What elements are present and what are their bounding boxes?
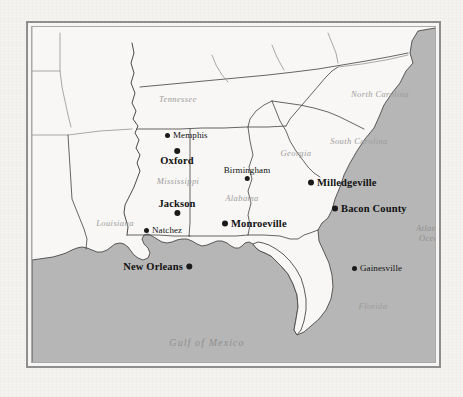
map-pin-icon — [222, 220, 228, 226]
city-label-new-orleans: New Orleans — [123, 261, 183, 272]
map-pin-icon — [308, 179, 314, 185]
city-marker-milledgeville[interactable]: Milledgeville — [308, 177, 377, 188]
region-label-south-carolina: South Carolina — [330, 136, 387, 146]
city-label-gainesville: Gainesville — [360, 263, 402, 273]
city-label-natchez: Natchez — [152, 225, 182, 235]
map-canvas: TennesseeNorth CarolinaSouth CarolinaGeo… — [32, 27, 435, 362]
city-label-oxford: Oxford — [160, 155, 194, 166]
city-marker-memphis[interactable]: Memphis — [165, 130, 208, 140]
city-label-memphis: Memphis — [173, 130, 208, 140]
water-label-gulf-of-mexico: Gulf of Mexico — [169, 337, 244, 348]
city-label-bacon-county: Bacon County — [341, 203, 407, 214]
city-marker-natchez[interactable]: Natchez — [144, 225, 182, 235]
city-marker-birmingham[interactable]: Birmingham — [224, 165, 271, 181]
region-label-florida: Florida — [359, 301, 388, 311]
map-pin-icon — [352, 266, 357, 271]
water-label-atlantic-ocean: AtlanticOcean — [416, 224, 435, 244]
region-label-alabama: Alabama — [225, 193, 259, 203]
map-pin-icon — [332, 205, 338, 211]
region-label-tennessee: Tennessee — [159, 94, 197, 104]
city-marker-oxford[interactable]: Oxford — [160, 148, 194, 166]
water-label-line: Ocean — [416, 234, 435, 244]
city-marker-gainesville[interactable]: Gainesville — [352, 263, 402, 273]
city-label-monroeville: Monroeville — [231, 218, 287, 229]
map-pin-icon — [174, 210, 180, 216]
city-marker-bacon-county[interactable]: Bacon County — [332, 203, 407, 214]
city-marker-new-orleans[interactable]: New Orleans — [123, 261, 192, 272]
region-label-mississippi: Mississippi — [157, 176, 200, 186]
water-label-line: Gulf of Mexico — [169, 337, 244, 348]
city-marker-jackson[interactable]: Jackson — [158, 198, 195, 216]
city-label-birmingham: Birmingham — [224, 165, 271, 175]
region-label-georgia: Georgia — [281, 148, 312, 158]
city-label-milledgeville: Milledgeville — [317, 177, 377, 188]
map-pin-icon — [144, 228, 149, 233]
map-plate: TennesseeNorth CarolinaSouth CarolinaGeo… — [26, 21, 441, 368]
region-label-louisiana: Louisiana — [96, 218, 134, 228]
map-pin-icon — [165, 133, 170, 138]
map-pin-icon — [174, 148, 180, 154]
map-plate-inner-rule: TennesseeNorth CarolinaSouth CarolinaGeo… — [31, 26, 436, 363]
map-pin-icon — [245, 176, 250, 181]
region-label-north-carolina: North Carolina — [351, 89, 409, 99]
map-pin-icon — [186, 263, 192, 269]
city-label-jackson: Jackson — [158, 198, 195, 209]
city-marker-monroeville[interactable]: Monroeville — [222, 218, 287, 229]
